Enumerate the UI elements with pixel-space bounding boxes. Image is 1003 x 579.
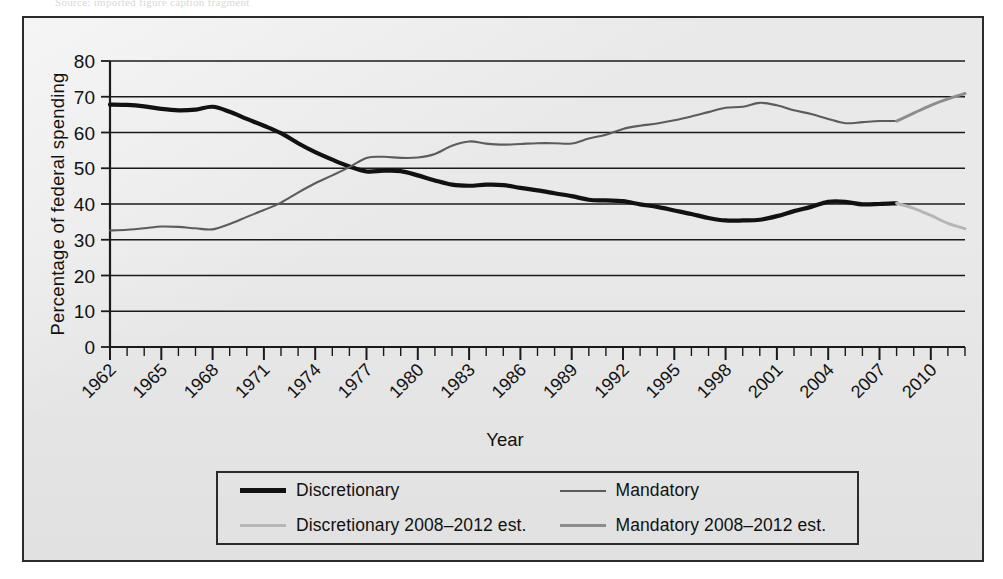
x-tick-label: 1977 bbox=[334, 360, 376, 402]
x-tick-label-group: 1968 bbox=[180, 360, 222, 402]
x-tick-label: 2001 bbox=[744, 360, 786, 402]
x-tick-label-group: 1962 bbox=[77, 360, 119, 402]
y-tick-label: 50 bbox=[74, 158, 95, 179]
legend-line-icon bbox=[240, 488, 286, 493]
y-tick-label: 40 bbox=[74, 194, 95, 215]
x-tick-label-group: 1995 bbox=[642, 360, 684, 402]
page-root: Source: imported figure caption fragment… bbox=[0, 0, 1003, 579]
series-line-mandatory bbox=[110, 103, 897, 231]
legend-item[interactable]: Discretionary bbox=[218, 480, 538, 501]
chart-legend: DiscretionaryMandatoryDiscretionary 2008… bbox=[216, 471, 859, 545]
x-tick-label: 1971 bbox=[231, 360, 273, 402]
legend-label: Mandatory bbox=[616, 480, 700, 501]
x-tick-label: 1992 bbox=[590, 360, 632, 402]
x-tick-label-group: 2001 bbox=[744, 360, 786, 402]
y-tick-label: 60 bbox=[74, 123, 95, 144]
y-axis-title: Percentage of federal spending bbox=[47, 72, 69, 335]
x-tick-label: 1983 bbox=[436, 360, 478, 402]
y-tick-label: 70 bbox=[74, 87, 95, 108]
x-tick-label: 1962 bbox=[77, 360, 119, 402]
x-tick-label-group: 1983 bbox=[436, 360, 478, 402]
x-tick-label-group: 1986 bbox=[488, 360, 530, 402]
x-tick-label-group: 1974 bbox=[283, 360, 325, 402]
x-tick-label-group: 2004 bbox=[796, 360, 838, 402]
x-tick-label: 1980 bbox=[385, 360, 427, 402]
x-tick-label-group: 1989 bbox=[539, 360, 581, 402]
legend-item[interactable]: Mandatory bbox=[538, 480, 858, 501]
x-tick-label: 2010 bbox=[898, 360, 940, 402]
y-tick-label: 10 bbox=[74, 301, 95, 322]
y-tick-label: 20 bbox=[74, 266, 95, 287]
x-tick-label: 1974 bbox=[283, 360, 325, 402]
legend-line-icon bbox=[560, 524, 606, 527]
x-tick-label-group: 1971 bbox=[231, 360, 273, 402]
y-tick-label: 30 bbox=[74, 230, 95, 251]
legend-label: Discretionary 2008–2012 est. bbox=[296, 515, 526, 536]
series-line-mandatory-2008-2012-est bbox=[897, 94, 965, 122]
x-tick-label: 2007 bbox=[847, 360, 889, 402]
x-tick-label-group: 1998 bbox=[693, 360, 735, 402]
x-tick-label: 1995 bbox=[642, 360, 684, 402]
x-tick-label-group: 1977 bbox=[334, 360, 376, 402]
legend-line-icon bbox=[560, 490, 606, 492]
series-line-discretionary-2008-2012-est bbox=[897, 203, 965, 228]
x-axis-title: Year bbox=[24, 429, 986, 451]
x-tick-label-group: 1965 bbox=[129, 360, 171, 402]
x-tick-label: 1998 bbox=[693, 360, 735, 402]
x-tick-label: 1965 bbox=[129, 360, 171, 402]
x-tick-label-group: 1992 bbox=[590, 360, 632, 402]
x-tick-label-group: 1980 bbox=[385, 360, 427, 402]
y-tick-label: 0 bbox=[84, 337, 95, 358]
figure-frame: 0102030405060708019621965196819711974197… bbox=[22, 16, 984, 562]
legend-label: Discretionary bbox=[296, 480, 399, 501]
legend-line-icon bbox=[240, 524, 286, 527]
x-tick-label: 1968 bbox=[180, 360, 222, 402]
legend-item[interactable]: Discretionary 2008–2012 est. bbox=[218, 515, 538, 536]
x-tick-label-group: 2007 bbox=[847, 360, 889, 402]
legend-item[interactable]: Mandatory 2008–2012 est. bbox=[538, 515, 858, 536]
x-tick-label: 2004 bbox=[796, 360, 838, 402]
x-tick-label-group: 2010 bbox=[898, 360, 940, 402]
legend-label: Mandatory 2008–2012 est. bbox=[616, 515, 827, 536]
cropped-caption-sliver: Source: imported figure caption fragment bbox=[55, 0, 655, 10]
x-tick-label: 1986 bbox=[488, 360, 530, 402]
y-tick-label: 80 bbox=[74, 51, 95, 72]
x-tick-label: 1989 bbox=[539, 360, 581, 402]
